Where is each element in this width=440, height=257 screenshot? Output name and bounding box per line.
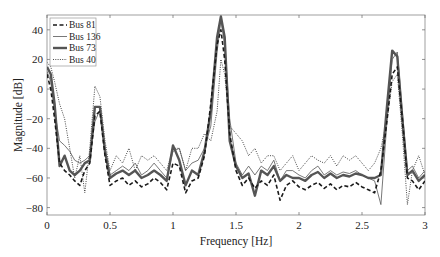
y-tick-label: 40 [32,24,44,36]
y-tick-label: −80 [26,202,44,214]
legend-label: Bus 73 [69,43,96,53]
y-tick-label: −20 [26,113,44,125]
y-tick-label: −60 [26,172,44,184]
legend-label: Bus 81 [69,20,96,30]
x-tick-label: 3 [422,219,428,231]
x-tick-label: 0.5 [103,219,117,231]
y-tick-label: −40 [26,142,44,154]
x-tick-label: 2 [296,219,302,231]
legend-label: Bus 136 [69,32,101,42]
x-tick-label: 1 [170,219,176,231]
plot-area [47,15,425,215]
legend-label: Bus 40 [69,55,96,65]
legend: Bus 81Bus 136Bus 73Bus 40 [50,18,101,66]
x-tick-label: 2.5 [355,219,369,231]
line-chart: 00.511.522.5340200−20−40−60−80 Bus 81Bus… [0,0,440,257]
x-tick-label: 1.5 [229,219,243,231]
x-axis-label: Frequency [Hz] [200,235,272,248]
y-tick-label: 20 [32,53,44,65]
x-tick-label: 0 [44,219,50,231]
y-tick-label: 0 [38,83,44,95]
y-axis-label: Magnitude [dB] [12,78,25,152]
